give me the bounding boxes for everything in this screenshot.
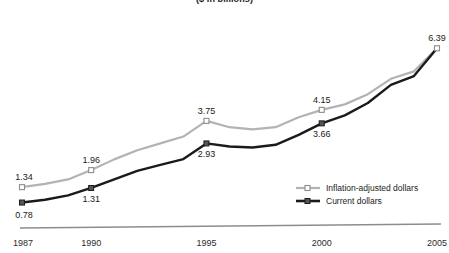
x-axis-tick-label: 2005 <box>427 238 447 248</box>
data-point-label: 1.34 <box>15 172 33 182</box>
legend-item[interactable]: Current dollars <box>296 196 382 206</box>
data-point-marker <box>89 168 94 173</box>
data-point-marker <box>204 141 209 146</box>
x-axis-tick-label: 1987 <box>13 238 33 248</box>
x-axis-tick-labels: 19871990199520002005 <box>13 238 447 248</box>
data-point-label: 4.15 <box>313 95 331 105</box>
series-layer <box>22 48 437 202</box>
legend-item[interactable]: Inflation-adjusted dollars <box>296 183 418 193</box>
series-line-current-dollars <box>22 48 437 202</box>
data-point-marker <box>20 185 25 190</box>
data-point-marker <box>319 121 324 126</box>
series-line-inflation-adjusted-dollars <box>22 48 437 187</box>
legend-item-label: Inflation-adjusted dollars <box>326 183 418 193</box>
data-point-marker <box>319 107 324 112</box>
data-point-marker <box>435 46 440 51</box>
x-axis-tick-label: 2000 <box>312 238 332 248</box>
x-axis-tick-label: 1995 <box>196 238 216 248</box>
x-axis-line <box>20 224 441 228</box>
chart-legend[interactable]: Inflation-adjusted dollarsCurrent dollar… <box>296 183 418 206</box>
data-point-marker <box>20 200 25 205</box>
data-point-marker <box>204 118 209 123</box>
data-point-label: 3.66 <box>313 129 331 139</box>
data-point-label: 6.39 <box>428 33 446 43</box>
legend-marker-swatch <box>305 199 310 204</box>
line-chart-plot: 1.341.963.754.156.390.781.312.933.66 198… <box>0 0 449 253</box>
data-point-label: 1.96 <box>82 155 100 165</box>
data-point-marker <box>89 185 94 190</box>
data-point-label: 2.93 <box>198 149 216 159</box>
data-point-label: 1.31 <box>82 194 100 204</box>
legend-item-label: Current dollars <box>326 196 382 206</box>
chart-figure: ($ in billions) 1.341.963.754.156.390.78… <box>0 0 449 253</box>
data-point-label: 0.78 <box>15 210 33 220</box>
data-point-label: 3.75 <box>198 106 216 116</box>
legend-marker-swatch <box>305 186 310 191</box>
data-point-markers <box>20 46 440 205</box>
x-axis-tick-label: 1990 <box>81 238 101 248</box>
